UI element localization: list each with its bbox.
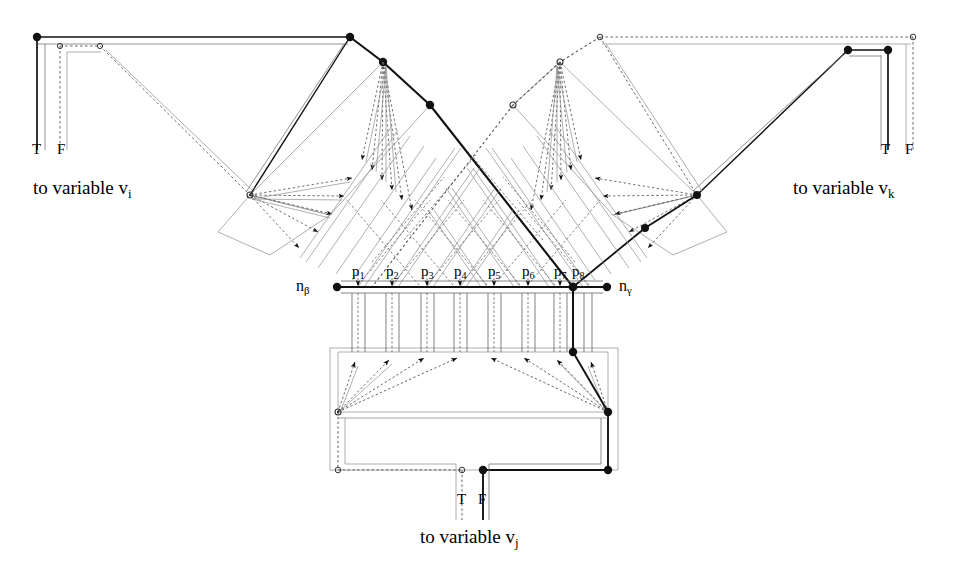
right-true-label: T (881, 142, 890, 157)
clause-gadget-diagram: T F to variable vi T F to variable vk T … (0, 0, 957, 581)
spine-node-p3: p3 (421, 264, 434, 281)
bottom-false-label: F (478, 492, 486, 507)
bottom-variable-subscript: j (515, 535, 519, 550)
spine-node-p4-text: p (454, 263, 462, 279)
layer-left-variable-rails (33, 33, 350, 195)
spine-node-p5: p5 (488, 264, 501, 281)
bottom-true-label: T (457, 492, 466, 507)
layer-left-lower-hub (247, 178, 352, 248)
spine-node-p8-subscript: 8 (580, 270, 585, 281)
spine-node-p2-text: p (386, 263, 394, 279)
spine-node-p7: p7 (554, 264, 567, 281)
left-variable-caption: to variable vi (33, 178, 132, 201)
layer-right-upper-hub (372, 34, 603, 287)
spine-node-p1: p1 (352, 264, 365, 281)
spine-node-p5-text: p (488, 263, 496, 279)
spine-node-p3-text: p (421, 263, 429, 279)
spine-node-p7-subscript: 7 (562, 270, 567, 281)
spine-node-p8: p8 (572, 264, 585, 281)
spine-node-p7-text: p (554, 263, 562, 279)
spine-node-p2-subscript: 2 (394, 270, 399, 281)
spine-terminal-right: nγ (619, 278, 632, 296)
right-variable-subscript: k (888, 186, 894, 201)
spine-node-p3-subscript: 3 (429, 270, 434, 281)
spine-terminal-right-subscript: γ (627, 284, 632, 296)
layer-vertical-drop-rails (352, 287, 592, 352)
spine-node-p4: p4 (454, 264, 467, 281)
layer-right-variable-rails (600, 34, 916, 195)
right-variable-caption: to variable vk (793, 178, 894, 201)
spine-terminal-left: nβ (296, 278, 310, 296)
spine-node-p1-text: p (352, 263, 360, 279)
bottom-variable-caption: to variable vj (420, 527, 519, 550)
left-variable-caption-text: to variable v (33, 177, 128, 198)
spine-node-p6-text: p (522, 263, 530, 279)
right-false-label: F (905, 142, 913, 157)
spine-terminal-left-subscript: β (304, 284, 310, 296)
spine-node-p2: p2 (386, 264, 399, 281)
bottom-variable-caption-text: to variable v (420, 526, 515, 547)
left-false-label: F (57, 142, 65, 157)
spine-node-p6-subscript: 6 (530, 270, 535, 281)
spine-node-p5-subscript: 5 (496, 270, 501, 281)
spine-node-p6: p6 (522, 264, 535, 281)
layer-bottom-gadget (335, 348, 612, 520)
spine-terminal-right-text: n (619, 277, 627, 294)
spine-node-p1-subscript: 1 (360, 270, 365, 281)
spine-node-p8-text: p (572, 263, 580, 279)
spine-node-p4-subscript: 4 (462, 270, 467, 281)
layer-right-lower-hub (573, 178, 701, 287)
left-true-label: T (32, 142, 41, 157)
spine-terminal-left-text: n (296, 277, 304, 294)
left-variable-subscript: i (128, 186, 132, 201)
layer-left-diagonal-band (300, 126, 519, 287)
right-variable-caption-text: to variable v (793, 177, 888, 198)
